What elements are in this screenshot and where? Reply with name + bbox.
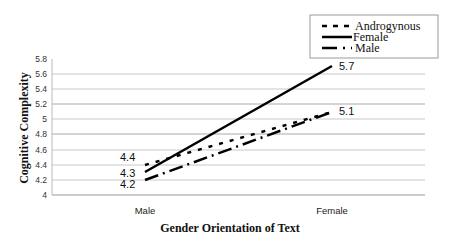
data-label-female-female: 5.7: [339, 60, 354, 72]
y-tick: 5: [42, 114, 47, 124]
y-tick: 5.4: [35, 84, 47, 94]
legend-male-label: Male: [355, 41, 380, 55]
gridlines: [52, 74, 425, 195]
x-tick-male: Male: [135, 205, 156, 216]
data-label-male-male: 4.2: [120, 178, 135, 190]
y-tick: 5.6: [35, 69, 47, 79]
y-tick: 5.2: [35, 99, 47, 109]
y-tick: 4: [42, 190, 47, 200]
y-tick: 4.8: [35, 129, 47, 139]
y-tick-labels: 4 4.2 4.4 4.6 4.8 5 5.2 5.4 5.6 5.8: [35, 54, 47, 200]
legend: Androgynous Female Male: [310, 15, 438, 58]
line-chart: 4 4.2 4.4 4.6 4.8 5 5.2 5.4 5.6 5.8 Male…: [0, 0, 459, 241]
y-tick: 4.4: [35, 160, 47, 170]
y-tick: 5.8: [35, 54, 47, 64]
y-tick: 4.6: [35, 145, 47, 155]
y-tick: 4.2: [35, 175, 47, 185]
data-label-androgynous-male-female: 5.1: [339, 105, 354, 117]
x-axis-title: Gender Orientation of Text: [160, 221, 299, 235]
series-male-line: [145, 112, 332, 180]
y-axis-title: Cognitive Complexity: [17, 72, 31, 184]
x-tick-female: Female: [316, 205, 348, 216]
data-label-androgynous-male: 4.4: [120, 151, 135, 163]
